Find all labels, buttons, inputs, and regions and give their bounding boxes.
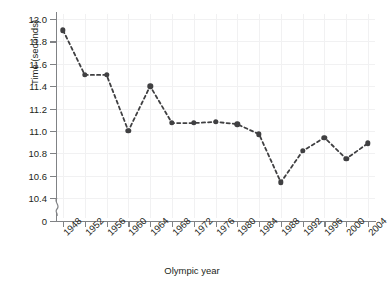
x-tick-label: 1972 <box>192 215 215 238</box>
gridline-vertical <box>237 14 238 218</box>
y-tick-mark <box>50 86 57 87</box>
x-tick-label: 1976 <box>214 215 237 238</box>
x-tick-label: 1956 <box>105 215 128 238</box>
x-tick-label: 1964 <box>148 215 171 238</box>
y-tick-mark-zero <box>50 221 57 222</box>
plot-area <box>57 14 375 218</box>
gridline-vertical <box>281 14 282 218</box>
y-tick-label: 10.6 <box>29 170 48 181</box>
y-tick-mark <box>50 153 57 154</box>
x-axis-title: Olympic year <box>0 265 384 276</box>
x-tick-label: 1968 <box>170 215 193 238</box>
gridline-vertical <box>303 14 304 218</box>
y-tick-mark <box>50 41 57 42</box>
y-tick-mark <box>50 19 57 20</box>
y-tick-mark <box>50 198 57 199</box>
y-tick-mark <box>50 176 57 177</box>
gridline-vertical <box>346 14 347 218</box>
x-tick-label: 1996 <box>322 215 345 238</box>
x-tick-label: 1948 <box>61 215 84 238</box>
x-tick-label: 1952 <box>83 215 106 238</box>
y-tick-mark <box>50 64 57 65</box>
x-tick-label: 2004 <box>366 215 389 238</box>
gridline-vertical <box>150 14 151 218</box>
y-tick-label: 11.4 <box>29 81 47 92</box>
y-tick-label: 10.8 <box>29 148 48 159</box>
gridline-vertical <box>259 14 260 218</box>
gridline-vertical <box>128 14 129 218</box>
y-tick-label-zero: 0 <box>42 216 47 227</box>
gridline-vertical <box>85 14 86 218</box>
x-tick-label: 1960 <box>126 215 149 238</box>
axis-break-icon <box>50 198 64 216</box>
gridline-vertical <box>172 14 173 218</box>
y-tick-label: 10.4 <box>29 193 48 204</box>
y-tick-mark <box>50 131 57 132</box>
y-tick-label: 12.0 <box>29 14 48 25</box>
x-tick-label: 1984 <box>257 215 280 238</box>
gridline-vertical <box>368 14 369 218</box>
x-tick-label: 1992 <box>301 215 324 238</box>
gridline-vertical <box>107 14 108 218</box>
gridline-vertical <box>194 14 195 218</box>
x-tick-label: 1980 <box>235 215 258 238</box>
y-tick-mark <box>50 109 57 110</box>
y-tick-label: 11.2 <box>29 103 47 114</box>
gridline-vertical <box>216 14 217 218</box>
x-tick-label: 1988 <box>279 215 302 238</box>
gridline-vertical <box>324 14 325 218</box>
y-tick-label: 11.8 <box>29 36 47 47</box>
y-tick-label: 11.0 <box>29 125 47 136</box>
y-tick-label: 11.6 <box>29 58 47 69</box>
gridline-vertical <box>63 14 64 218</box>
x-tick-label: 2000 <box>344 215 367 238</box>
